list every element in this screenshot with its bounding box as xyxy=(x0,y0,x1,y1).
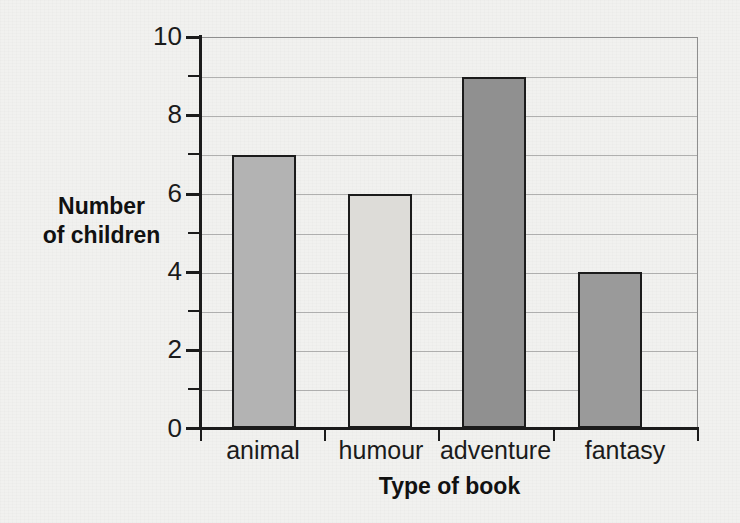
bar-fantasy[interactable] xyxy=(578,272,642,428)
x-tick-4 xyxy=(697,430,699,441)
y-tick-3 xyxy=(188,310,199,312)
y-tick-7 xyxy=(188,153,199,155)
y-tick-8 xyxy=(186,114,199,117)
y-tick-label-4: 4 xyxy=(138,258,182,284)
x-category-label-adventure: adventure xyxy=(438,437,553,463)
y-axis-title-line1: Number xyxy=(14,192,189,221)
x-category-label-animal: animal xyxy=(202,437,324,463)
x-category-label-fantasy: fantasy xyxy=(553,437,697,463)
y-axis-title-line2: of children xyxy=(14,221,189,250)
y-tick-2 xyxy=(186,349,199,352)
y-tick-5 xyxy=(188,232,199,234)
x-axis-line xyxy=(199,427,699,430)
gridline-8 xyxy=(201,116,697,117)
x-category-label-humour: humour xyxy=(324,437,438,463)
y-tick-0 xyxy=(186,427,199,430)
plot-area xyxy=(201,37,698,428)
y-tick-1 xyxy=(188,388,199,390)
y-axis-line xyxy=(199,35,202,430)
gridline-9 xyxy=(201,77,697,78)
y-tick-9 xyxy=(188,75,199,77)
bar-animal[interactable] xyxy=(232,155,296,428)
x-axis-title: Type of book xyxy=(201,473,698,500)
bar-chart-figure: 10 8 6 4 2 0 animal humour adventure fan… xyxy=(0,0,740,523)
y-tick-10 xyxy=(186,36,199,39)
bar-adventure[interactable] xyxy=(462,77,526,428)
y-tick-label-8: 8 xyxy=(138,101,182,127)
y-tick-4 xyxy=(186,271,199,274)
y-tick-label-10: 10 xyxy=(138,23,182,49)
y-tick-label-2: 2 xyxy=(138,336,182,362)
y-tick-label-0: 0 xyxy=(138,415,182,441)
bar-humour[interactable] xyxy=(348,194,412,428)
y-axis-title: Number of children xyxy=(14,192,189,250)
